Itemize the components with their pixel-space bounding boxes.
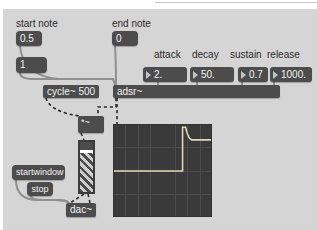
fader-thumb[interactable] — [80, 150, 93, 153]
multiply-object: *~ — [78, 116, 104, 133]
numberbox-arrow-icon — [193, 71, 198, 79]
release-numberbox[interactable]: 1000. — [270, 67, 312, 82]
scope-display — [113, 124, 212, 217]
cycle-object: cycle~ 500 — [43, 85, 99, 98]
release-value: 1000. — [281, 70, 306, 80]
sustain-numberbox[interactable]: 0.7 — [238, 67, 268, 82]
decay-label: decay — [192, 50, 219, 60]
envelope-trace — [114, 127, 211, 171]
release-label: release — [267, 50, 300, 60]
startwindow-message[interactable]: startwindow — [12, 165, 65, 180]
attack-numberbox[interactable]: 2. — [143, 67, 187, 82]
attack-value: 2. — [154, 70, 162, 80]
start-note-label: start note — [16, 19, 58, 29]
numberbox-arrow-icon — [241, 71, 246, 79]
gain-fader[interactable] — [78, 140, 95, 194]
scan-artifact-line — [155, 2, 317, 3]
scope-waveform — [114, 125, 211, 216]
decay-value: 50. — [201, 70, 215, 80]
decay-numberbox[interactable]: 50. — [190, 67, 234, 82]
adsr-object: adsr~ — [113, 85, 280, 98]
stop-message[interactable]: stop — [27, 182, 53, 196]
attack-label: attack — [154, 50, 181, 60]
numberbox-arrow-icon — [146, 71, 151, 79]
velocity-message[interactable]: 1 — [16, 57, 47, 73]
fader-track-top — [80, 142, 93, 150]
sustain-label: sustain — [230, 50, 262, 60]
dac-object: dac~ — [66, 203, 96, 217]
start-value-message[interactable]: 0.5 — [16, 31, 42, 46]
sustain-value: 0.7 — [249, 70, 263, 80]
end-value-message[interactable]: 0 — [112, 31, 138, 46]
numberbox-arrow-icon — [273, 71, 278, 79]
end-note-label: end note — [112, 19, 151, 29]
